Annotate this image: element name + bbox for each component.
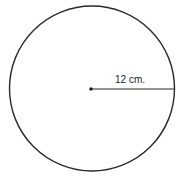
circle-diagram: 12 cm. bbox=[0, 0, 177, 176]
center-point bbox=[89, 87, 92, 90]
radius-label: 12 cm. bbox=[115, 74, 145, 85]
